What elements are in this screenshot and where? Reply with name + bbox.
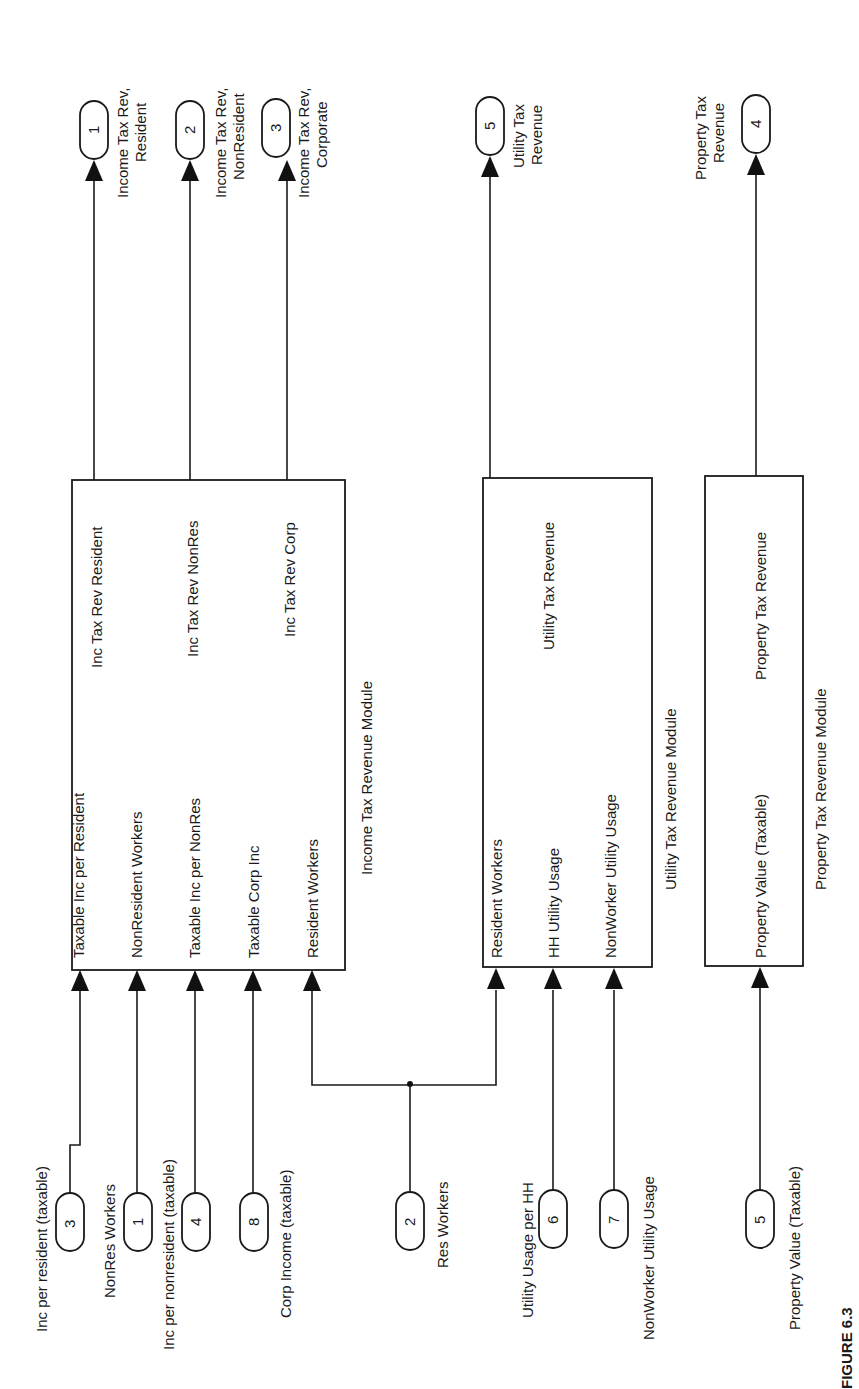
outport-label-line1: Utility Tax (510, 104, 527, 168)
inport-label: Corp Income (taxable) (277, 1170, 294, 1318)
income-input-label: Taxable Inc per Resident (70, 792, 87, 958)
outport-label-line1: Income Tax Rev, (295, 88, 312, 198)
arrowhead-icon (487, 968, 505, 989)
outport-1[interactable]: 1 (80, 101, 108, 159)
arrowhead-icon (128, 970, 146, 991)
property-output-label: Property Tax Revenue (752, 532, 769, 680)
arrowhead-icon (481, 156, 499, 177)
outport-label-line2: NonResident (230, 92, 247, 180)
inport-3[interactable]: 3 (56, 1193, 84, 1251)
arrowhead-icon (605, 968, 623, 989)
outport-label-line2: Corporate (313, 101, 330, 168)
utility-input-label: NonWorker Utility Usage (602, 794, 619, 958)
svg-text:2: 2 (401, 1218, 418, 1226)
tax-revenue-block-diagram: Income Tax Revenue Module Utility Tax Re… (0, 0, 859, 1389)
utility-input-label: HH Utility Usage (545, 848, 562, 958)
inport-label: Inc per nonresident (taxable) (160, 1159, 177, 1350)
outport-label-line2: Revenue (710, 103, 727, 163)
utility-tax-module-block[interactable] (483, 478, 652, 967)
outport-3[interactable]: 3 (262, 99, 290, 157)
income-output-label: Inc Tax Rev Resident (88, 526, 105, 668)
arrowhead-icon (244, 970, 262, 991)
outport-4[interactable]: 4 (742, 95, 770, 153)
svg-text:5: 5 (751, 1216, 768, 1224)
arrowhead-icon (71, 970, 89, 991)
outport-label-line2: Revenue (528, 105, 545, 165)
inport-8[interactable]: 8 (240, 1193, 268, 1251)
svg-text:6: 6 (544, 1216, 561, 1224)
svg-text:3: 3 (267, 124, 284, 132)
inport-label: Property Value (Taxable) (786, 1166, 803, 1330)
income-input-label: Resident Workers (304, 839, 321, 958)
utility-output-label: Utility Tax Revenue (540, 522, 557, 650)
outport-label-line1: Income Tax Rev, (212, 88, 229, 198)
arrowhead-icon (278, 160, 296, 181)
arrowhead-icon (186, 970, 204, 991)
arrowhead-icon (544, 968, 562, 989)
inport-label: NonWorker Utility Usage (640, 1176, 657, 1340)
figure-caption: FIGURE 6.3 (838, 1307, 855, 1389)
utility-tax-module-name: Utility Tax Revenue Module (662, 709, 679, 890)
property-tax-module-name: Property Tax Revenue Module (812, 688, 829, 890)
inport-7[interactable]: 7 (600, 1190, 628, 1248)
arrowhead-icon (747, 154, 765, 175)
income-input-label: Taxable Corp Inc (245, 845, 262, 958)
utility-input-label: Resident Workers (488, 839, 505, 958)
arrowhead-icon (85, 160, 103, 181)
arrowhead-icon (181, 160, 199, 181)
property-input-label: Property Value (Taxable) (752, 794, 769, 958)
income-tax-module-name: Income Tax Revenue Module (358, 681, 375, 875)
inport-4[interactable]: 4 (182, 1193, 210, 1251)
svg-text:2: 2 (181, 126, 198, 134)
income-output-label: Inc Tax Rev NonRes (184, 521, 201, 657)
inport-label: Res Workers (434, 1182, 451, 1268)
income-input-label: Taxable Inc per NonRes (186, 798, 203, 958)
svg-text:5: 5 (481, 122, 498, 130)
inport-label: NonRes Workers (101, 1184, 118, 1298)
income-input-label: NonResident Workers (128, 812, 145, 958)
inport-1[interactable]: 1 (124, 1193, 152, 1251)
wire-in-2-branch (312, 990, 496, 1085)
inport-2[interactable]: 2 (396, 1192, 424, 1250)
branch-point (407, 1081, 413, 1087)
arrowhead-icon (751, 967, 769, 988)
svg-text:4: 4 (187, 1218, 204, 1226)
wire-in-3 (70, 990, 80, 1193)
svg-text:1: 1 (85, 126, 102, 134)
svg-text:4: 4 (747, 120, 764, 128)
svg-text:3: 3 (61, 1220, 78, 1228)
outport-label-line2: Resident (132, 102, 149, 162)
outport-label-line1: Income Tax Rev, (114, 88, 131, 198)
svg-text:8: 8 (245, 1218, 262, 1226)
svg-text:7: 7 (605, 1216, 622, 1224)
outport-2[interactable]: 2 (176, 101, 204, 159)
svg-text:1: 1 (129, 1218, 146, 1226)
inport-label: Utility Usage per HH (519, 1182, 536, 1318)
inport-5[interactable]: 5 (746, 1190, 774, 1248)
outport-label-line1: Property Tax (692, 96, 709, 180)
inport-label: Inc per resident (taxable) (33, 1166, 50, 1332)
inport-6[interactable]: 6 (539, 1190, 567, 1248)
arrowhead-icon (303, 970, 321, 991)
outport-5[interactable]: 5 (476, 97, 504, 155)
income-output-label: Inc Tax Rev Corp (281, 522, 298, 637)
